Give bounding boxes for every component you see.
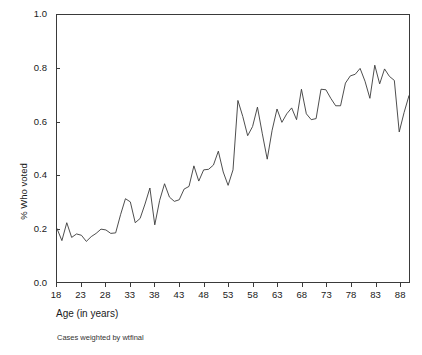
y-tick-mark — [56, 122, 60, 123]
data-line — [57, 65, 409, 241]
x-tick-mark — [228, 283, 229, 287]
x-tick-mark — [400, 283, 401, 287]
x-tick-label: 33 — [124, 289, 135, 300]
x-tick-label: 88 — [395, 289, 406, 300]
y-tick-label: 0.0 — [34, 278, 47, 288]
plot-area — [56, 14, 410, 283]
x-tick-label: 43 — [174, 289, 185, 300]
x-tick-mark — [56, 283, 57, 287]
x-tick-mark — [130, 283, 131, 287]
y-tick-mark — [56, 175, 60, 176]
x-tick-mark — [302, 283, 303, 287]
x-tick-label: 28 — [100, 289, 111, 300]
y-axis-title: % Who voted — [18, 147, 29, 237]
x-tick-mark — [81, 283, 82, 287]
x-tick-label: 63 — [272, 289, 283, 300]
x-tick-label: 78 — [346, 289, 357, 300]
chart-figure: 0.00.20.40.60.81.0 % Who voted Age (in y… — [0, 0, 422, 355]
x-axis-title: Age (in years) — [56, 308, 118, 319]
x-tick-label: 68 — [297, 289, 308, 300]
x-tick-mark — [351, 283, 352, 287]
x-tick-label: 23 — [75, 289, 86, 300]
x-tick-label: 38 — [149, 289, 160, 300]
x-tick-label: 53 — [223, 289, 234, 300]
x-tick-mark — [326, 283, 327, 287]
x-tick-mark — [179, 283, 180, 287]
x-tick-mark — [105, 283, 106, 287]
x-tick-mark — [277, 283, 278, 287]
x-tick-mark — [376, 283, 377, 287]
x-tick-label: 58 — [247, 289, 258, 300]
x-tick-label: 83 — [370, 289, 381, 300]
y-tick-label: 1.0 — [34, 9, 47, 19]
x-tick-label: 73 — [321, 289, 332, 300]
y-tick-label: 0.6 — [34, 117, 47, 127]
x-tick-label: 48 — [198, 289, 209, 300]
y-tick-label: 0.8 — [34, 63, 47, 73]
y-tick-mark — [56, 229, 60, 230]
x-tick-mark — [204, 283, 205, 287]
line-series-svg — [57, 15, 409, 282]
chart-footnote: Cases weighted by wtfinal — [57, 333, 144, 342]
x-tick-label: 18 — [51, 289, 62, 300]
x-tick-mark — [154, 283, 155, 287]
x-tick-mark — [253, 283, 254, 287]
y-tick-label: 0.2 — [34, 224, 47, 234]
y-tick-mark — [56, 68, 60, 69]
y-tick-label: 0.4 — [34, 170, 47, 180]
